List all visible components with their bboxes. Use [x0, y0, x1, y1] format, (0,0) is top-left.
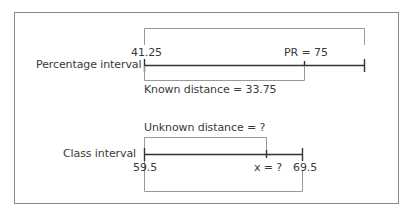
x-marker-label: x = ?	[254, 161, 282, 174]
class-interval-label: Class interval	[63, 147, 136, 160]
class-interval-line	[144, 148, 303, 161]
percentage-interval-line	[144, 59, 365, 72]
class-end-value: 69.5	[293, 161, 317, 174]
class-start-value: 59.5	[133, 161, 157, 174]
known-distance-bracket	[145, 66, 305, 81]
pr-marker-label: PR = 75	[284, 46, 328, 59]
interval-diagram	[0, 0, 413, 216]
percentage-interval-label: Percentage interval	[36, 58, 141, 71]
percentage-top-bracket	[145, 29, 365, 46]
percentage-start-value: 41.25	[131, 46, 162, 59]
unknown-distance-label: Unknown distance = ?	[144, 121, 265, 134]
known-distance-label: Known distance = 33.75	[144, 83, 277, 96]
unknown-distance-bracket	[145, 138, 267, 155]
